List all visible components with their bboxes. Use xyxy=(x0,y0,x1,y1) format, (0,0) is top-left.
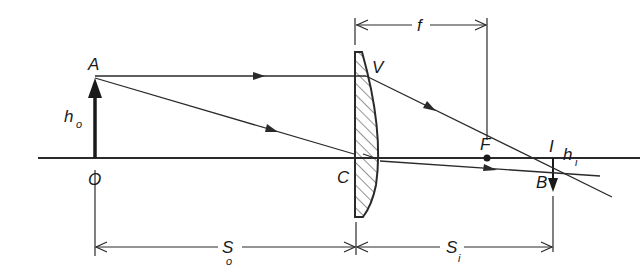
focal-point-dot xyxy=(484,155,491,162)
ray-chief xyxy=(95,78,354,154)
label-image-distance-sub: i xyxy=(458,252,461,264)
label-lens-vertex: V xyxy=(372,58,385,77)
label-object-distance-sub: o xyxy=(226,255,232,267)
label-image-base: I xyxy=(549,137,554,156)
label-object-base: O xyxy=(88,170,101,189)
label-image-distance: S xyxy=(446,238,458,257)
label-object-top: A xyxy=(87,55,99,74)
ray-arrow-icon xyxy=(265,124,278,132)
label-lens-center: C xyxy=(337,168,350,187)
label-object-height-sub: o xyxy=(76,118,82,130)
label-focal-length: f xyxy=(417,16,424,35)
ray-arrow-icon xyxy=(483,164,497,171)
lens-ray-diagram: A O h o C V F f I B h i S o S i xyxy=(0,0,640,275)
label-image-height: h xyxy=(563,145,572,164)
object-arrow-head xyxy=(88,78,102,98)
ray-arrow-icon xyxy=(423,101,436,111)
label-image-top: B xyxy=(536,173,547,192)
label-focal-point: F xyxy=(480,135,492,154)
image-arrow-head xyxy=(548,178,558,192)
label-object-height: h xyxy=(64,107,73,126)
ray-arrow-icon xyxy=(253,72,265,80)
